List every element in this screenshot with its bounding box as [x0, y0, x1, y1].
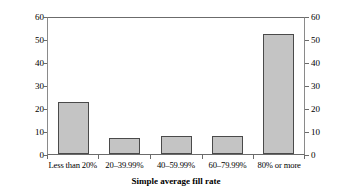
y-axis-tick-label-50: 50 — [24, 36, 44, 45]
y-axis-tick-label-60: 60 — [24, 13, 44, 22]
bar-less-than-20[interactable] — [58, 102, 89, 154]
y-axis-tick-label-30: 30 — [24, 82, 44, 91]
x-axis-label-2: 40–59.99% — [150, 159, 202, 173]
bar-slot-2 — [150, 18, 201, 154]
bar-60-79[interactable] — [212, 136, 243, 154]
y-axis-right-tick-label-10: 10 — [311, 128, 331, 137]
y-axis-tick-label-10: 10 — [24, 128, 44, 137]
x-axis-label-4: 80% or more — [253, 159, 305, 173]
y-axis-tick-label-0: 0 — [24, 151, 44, 160]
y-axis-right-tick-label-40: 40 — [311, 59, 331, 68]
y-axis-right-tick-label-0: 0 — [311, 151, 331, 160]
y-axis-right-tick-label-60: 60 — [311, 13, 331, 22]
x-axis-label-0: Less than 20% — [47, 159, 99, 173]
bar-slot-0 — [48, 18, 99, 154]
bar-20-39[interactable] — [109, 138, 140, 154]
x-axis-label-1: 20–39.99% — [99, 159, 151, 173]
x-axis-label-3: 60–79.99% — [202, 159, 254, 173]
chart-figure: % of number of tariff quotas 60 50 40 30… — [0, 0, 357, 194]
bar-80-or-more[interactable] — [263, 34, 294, 154]
bar-slot-4 — [253, 18, 304, 154]
y-axis-right-tick-label-30: 30 — [311, 82, 331, 91]
bar-40-59[interactable] — [161, 136, 192, 154]
y-axis-tick-label-20: 20 — [24, 105, 44, 114]
plot-area — [47, 17, 305, 155]
bar-slot-1 — [99, 18, 150, 154]
y-axis-right-tick-label-20: 20 — [311, 105, 331, 114]
y-axis-tick-label-40: 40 — [24, 59, 44, 68]
bar-series — [48, 18, 304, 154]
x-axis-category-labels: Less than 20% 20–39.99% 40–59.99% 60–79.… — [47, 159, 305, 173]
x-axis-title: Simple average fill rate — [47, 176, 305, 186]
bar-slot-3 — [202, 18, 253, 154]
y-axis-right-tick-label-50: 50 — [311, 36, 331, 45]
